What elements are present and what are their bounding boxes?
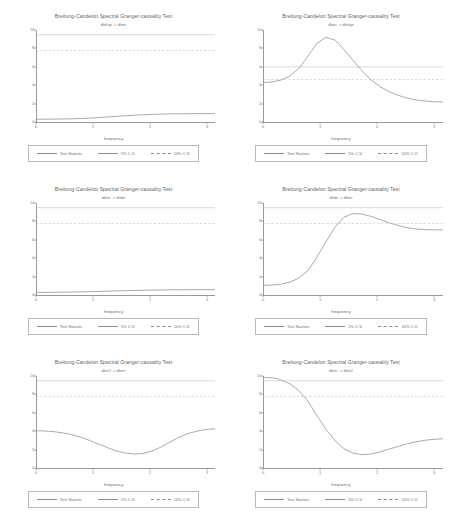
plot-canvas: 02468100123 xyxy=(36,30,215,122)
y-tick-mark xyxy=(261,203,263,204)
legend-item-cv5: 5% C.V. xyxy=(325,151,362,156)
x-tick-mark xyxy=(93,122,94,124)
legend-item-test-statistic: Test Statistic xyxy=(264,497,309,502)
chart-panel-middle-right: Breitung-Candelon Spectral Granger-causa… xyxy=(227,173,455,346)
x-tick-label: 3 xyxy=(206,470,208,475)
test-statistic-curve xyxy=(36,114,215,120)
panel-subtitle: dlner -> dlnbr xyxy=(0,195,227,200)
legend-item-cv10: 10% C.V. xyxy=(151,497,191,502)
plot-area: 02468100123 xyxy=(227,374,455,482)
plot-area: 02468100123 xyxy=(227,28,455,136)
panel-title: Breitung-Candelon Spectral Granger-causa… xyxy=(0,13,227,19)
y-tick-mark xyxy=(34,85,36,86)
test-statistic-curve xyxy=(263,37,443,102)
y-tick-mark xyxy=(34,48,36,49)
x-tick-label: 1 xyxy=(92,470,94,475)
legend-item-cv10: 10% C.V. xyxy=(151,151,191,156)
panel-subtitle: dlnbr -> dlner xyxy=(227,195,455,200)
y-tick-mark xyxy=(34,66,36,67)
plot-area: 02468100123 xyxy=(0,201,227,309)
chart-legend: Test Statistic5% C.V.10% C.V. xyxy=(255,145,427,162)
legend-swatch-icon xyxy=(37,326,57,327)
legend-swatch-icon xyxy=(37,499,57,500)
x-tick-mark xyxy=(207,295,208,297)
legend-item-cv10: 10% C.V. xyxy=(378,324,418,329)
legend-swatch-icon xyxy=(325,326,345,327)
x-axis xyxy=(263,468,443,469)
legend-label: 10% C.V. xyxy=(401,324,418,329)
y-tick-mark xyxy=(34,258,36,259)
y-tick-mark xyxy=(34,394,36,395)
test-statistic-curve xyxy=(36,290,215,293)
legend-swatch-icon xyxy=(325,499,345,500)
x-tick-mark xyxy=(434,468,435,470)
x-axis-label: frequency xyxy=(227,309,455,314)
panel-title: Breitung-Candelon Spectral Granger-causa… xyxy=(0,359,227,365)
x-tick-mark xyxy=(36,122,37,124)
legend-label: Test Statistic xyxy=(60,151,82,156)
legend-label: 5% C.V. xyxy=(348,324,362,329)
panel-subtitle: dlner -> dlnfspi xyxy=(227,22,455,27)
panel-title: Breitung-Candelon Spectral Granger-causa… xyxy=(227,13,455,19)
y-tick-mark xyxy=(34,239,36,240)
x-tick-label: 0 xyxy=(262,470,264,475)
legend-item-cv10: 10% C.V. xyxy=(378,151,418,156)
x-tick-label: 0 xyxy=(35,124,37,129)
x-tick-mark xyxy=(377,468,378,470)
y-tick-mark xyxy=(261,376,263,377)
x-axis-label: frequency xyxy=(227,482,455,487)
y-tick-mark xyxy=(261,394,263,395)
legend-label: Test Statistic xyxy=(287,151,309,156)
legend-item-cv10: 10% C.V. xyxy=(378,497,418,502)
y-tick-mark xyxy=(34,276,36,277)
legend-item-cv5: 5% C.V. xyxy=(325,324,362,329)
x-tick-mark xyxy=(36,295,37,297)
legend-label: Test Statistic xyxy=(287,324,309,329)
test-statistic-curve xyxy=(36,429,215,454)
plot-area: 02468100123 xyxy=(227,201,455,309)
legend-swatch-icon xyxy=(37,153,57,154)
x-tick-label: 2 xyxy=(376,470,378,475)
legend-label: 10% C.V. xyxy=(174,324,191,329)
panel-subtitle: dlner -> dlnir2 xyxy=(227,368,455,373)
y-tick-mark xyxy=(261,258,263,259)
plot-area: 02468100123 xyxy=(0,28,227,136)
legend-swatch-icon xyxy=(378,326,398,327)
x-tick-label: 2 xyxy=(149,297,151,302)
test-statistic-curve xyxy=(263,214,443,286)
x-tick-label: 2 xyxy=(376,124,378,129)
chart-legend: Test Statistic5% C.V.10% C.V. xyxy=(255,491,427,508)
x-axis xyxy=(263,122,443,123)
x-tick-label: 1 xyxy=(319,297,321,302)
legend-swatch-icon xyxy=(151,153,171,154)
legend-item-cv10: 10% C.V. xyxy=(151,324,191,329)
x-axis-label: frequency xyxy=(0,309,227,314)
legend-label: Test Statistic xyxy=(60,497,82,502)
legend-swatch-icon xyxy=(264,326,284,327)
legend-swatch-icon xyxy=(151,326,171,327)
legend-item-test-statistic: Test Statistic xyxy=(264,324,309,329)
x-tick-mark xyxy=(320,122,321,124)
y-tick-mark xyxy=(261,48,263,49)
legend-label: 10% C.V. xyxy=(174,151,191,156)
legend-swatch-icon xyxy=(325,153,345,154)
legend-swatch-icon xyxy=(378,153,398,154)
chart-legend: Test Statistic5% C.V.10% C.V. xyxy=(28,145,199,162)
legend-item-test-statistic: Test Statistic xyxy=(264,151,309,156)
y-tick-mark xyxy=(34,203,36,204)
legend-swatch-icon xyxy=(378,499,398,500)
x-tick-label: 0 xyxy=(262,297,264,302)
legend-swatch-icon xyxy=(264,499,284,500)
y-tick-mark xyxy=(34,103,36,104)
x-tick-mark xyxy=(263,468,264,470)
y-tick-mark xyxy=(261,431,263,432)
panel-title: Breitung-Candelon Spectral Granger-causa… xyxy=(0,186,227,192)
y-tick-mark xyxy=(261,276,263,277)
legend-swatch-icon xyxy=(98,153,118,154)
x-tick-label: 3 xyxy=(433,124,435,129)
x-tick-mark xyxy=(93,468,94,470)
legend-swatch-icon xyxy=(98,499,118,500)
x-tick-label: 3 xyxy=(433,297,435,302)
y-tick-mark xyxy=(34,376,36,377)
x-tick-label: 2 xyxy=(149,124,151,129)
